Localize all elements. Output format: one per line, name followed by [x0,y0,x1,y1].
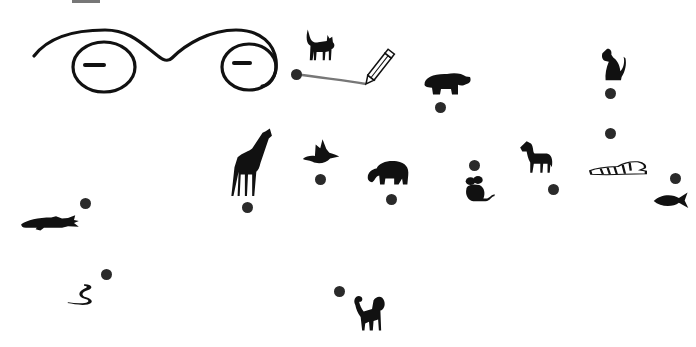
dot-10[interactable] [242,202,253,213]
mouse-icon [463,175,497,203]
elephant-icon [366,157,410,187]
crocodile-icon [20,207,80,233]
dot-2[interactable] [435,102,446,113]
pencil-icon [363,49,395,86]
monkey-icon [350,293,388,333]
drawn-line [296,74,366,84]
dot-12[interactable] [101,269,112,280]
dot-7[interactable] [469,160,480,171]
dot-8[interactable] [386,194,397,205]
dot-3[interactable] [605,88,616,99]
dot-11[interactable] [80,198,91,209]
fish-icon [653,190,689,210]
horse-icon [518,140,554,174]
dot-6[interactable] [548,184,559,195]
game-canvas[interactable] [0,0,696,347]
snake-icon [66,282,102,306]
dot-1[interactable] [291,69,302,80]
dot-5[interactable] [670,173,681,184]
dog-icon [596,46,628,82]
tiger-icon [589,155,647,181]
bird-icon [302,138,340,170]
dot-4[interactable] [605,128,616,139]
hippo-icon [422,68,472,98]
dot-13[interactable] [334,286,345,297]
cat-icon [303,26,337,62]
dot-9[interactable] [315,174,326,185]
giraffe-icon [222,127,274,199]
